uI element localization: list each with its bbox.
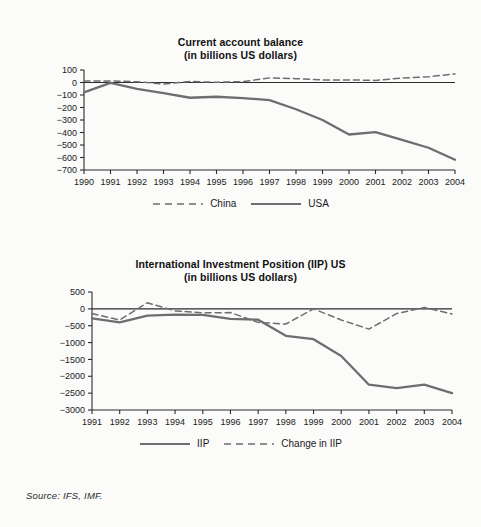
y-tick-label: −100 (57, 90, 77, 100)
x-tick-label: 1995 (206, 177, 226, 187)
x-tick-label: 1993 (137, 417, 157, 427)
chart1-legend: China USA (0, 198, 481, 210)
x-tick-label: 1999 (304, 417, 324, 427)
x-tick-label: 1999 (312, 177, 332, 187)
legend-entry-china[interactable]: China (152, 198, 236, 210)
legend-label-iip: IIP (197, 438, 209, 450)
y-tick-label: 0 (80, 304, 85, 314)
legend-swatch-dashed-icon (223, 439, 275, 449)
legend-swatch-solid-icon (139, 439, 191, 449)
legend-label-china: China (210, 198, 236, 210)
x-tick-label: 2003 (414, 417, 434, 427)
y-tick-label: 500 (70, 287, 85, 297)
y-tick-label: −700 (57, 165, 77, 175)
x-tick-label: 2003 (418, 177, 438, 187)
x-tick-label: 2001 (359, 417, 379, 427)
x-tick-label: 1994 (165, 417, 185, 427)
legend-label-change-in-iip: Change in IIP (281, 438, 342, 450)
y-tick-label: −600 (57, 153, 77, 163)
x-tick-label: 1997 (259, 177, 279, 187)
chart2-title: International Investment Position (IIP) … (135, 258, 345, 270)
chart2-legend: IIP Change in IIP (0, 438, 481, 450)
x-tick-label: 1991 (100, 177, 120, 187)
x-tick-label: 1997 (248, 417, 268, 427)
y-tick-label: −1500 (60, 355, 85, 365)
legend-entry-change-in-iip[interactable]: Change in IIP (223, 438, 342, 450)
chart1-svg: 1000−100−200−300−400−500−600−70019901991… (0, 62, 481, 192)
x-tick-label: 2002 (387, 417, 407, 427)
y-tick-label: −500 (65, 321, 85, 331)
x-tick-label: 2004 (445, 177, 465, 187)
x-tick-label: 2002 (392, 177, 412, 187)
chart1-plot-area: 1000−100−200−300−400−500−600−70019901991… (0, 62, 481, 192)
y-tick-label: −300 (57, 115, 77, 125)
legend-label-usa: USA (308, 198, 329, 210)
chart1-title: Current account balance (178, 36, 303, 48)
legend-swatch-dashed-icon (152, 199, 204, 209)
chart2-subtitle: (in billions US dollars) (0, 271, 481, 284)
y-tick-label: −2500 (60, 388, 85, 398)
chart1-title-group: Current account balance (in billions US … (0, 36, 481, 62)
y-tick-label: 0 (72, 78, 77, 88)
chart2-svg: 5000−500−1000−1500−2000−2500−30001991199… (0, 284, 481, 432)
x-tick-label: 1993 (153, 177, 173, 187)
series-line-usa (84, 83, 455, 160)
y-tick-label: −2000 (60, 371, 85, 381)
x-tick-label: 1990 (74, 177, 94, 187)
y-tick-label: −3000 (60, 405, 85, 415)
source-note: Source: IFS, IMF. (26, 490, 103, 501)
chart2-title-group: International Investment Position (IIP) … (0, 258, 481, 284)
x-tick-label: 1992 (110, 417, 130, 427)
series-line-iip (92, 315, 452, 394)
x-tick-label: 2000 (339, 177, 359, 187)
x-tick-label: 1996 (220, 417, 240, 427)
x-tick-label: 2001 (365, 177, 385, 187)
legend-entry-iip[interactable]: IIP (139, 438, 209, 450)
chart-current-account-balance: Current account balance (in billions US … (0, 36, 481, 248)
x-tick-label: 1996 (233, 177, 253, 187)
legend-swatch-solid-icon (250, 199, 302, 209)
chart1-subtitle: (in billions US dollars) (0, 49, 481, 62)
y-tick-label: −200 (57, 103, 77, 113)
x-tick-label: 1995 (193, 417, 213, 427)
chart2-plot-area: 5000−500−1000−1500−2000−2500−30001991199… (0, 284, 481, 432)
x-tick-label: 1991 (82, 417, 102, 427)
y-tick-label: −500 (57, 140, 77, 150)
x-tick-label: 1994 (180, 177, 200, 187)
chart-international-investment-position: International Investment Position (IIP) … (0, 258, 481, 488)
x-tick-label: 1998 (286, 177, 306, 187)
x-tick-label: 2000 (331, 417, 351, 427)
x-tick-label: 1998 (276, 417, 296, 427)
y-tick-label: −400 (57, 128, 77, 138)
x-tick-label: 2004 (442, 417, 462, 427)
y-tick-label: 100 (62, 65, 77, 75)
x-tick-label: 1992 (127, 177, 147, 187)
legend-entry-usa[interactable]: USA (250, 198, 329, 210)
y-tick-label: −1000 (60, 338, 85, 348)
figure-panel: Current account balance (in billions US … (0, 0, 481, 527)
